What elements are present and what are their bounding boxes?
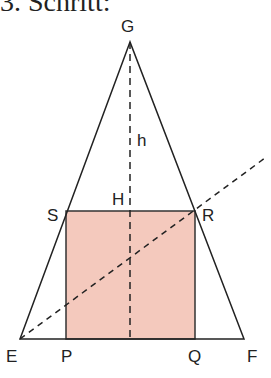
label-h: h [137, 131, 146, 150]
label-F: F [247, 347, 257, 366]
label-E: E [6, 347, 17, 366]
triangle-square-diagram: G h H S R E P Q F [0, 0, 271, 378]
label-H: H [112, 190, 124, 209]
label-Q: Q [188, 347, 201, 366]
label-S: S [47, 206, 58, 225]
label-G: G [121, 17, 134, 36]
label-P: P [61, 347, 72, 366]
label-R: R [202, 206, 214, 225]
